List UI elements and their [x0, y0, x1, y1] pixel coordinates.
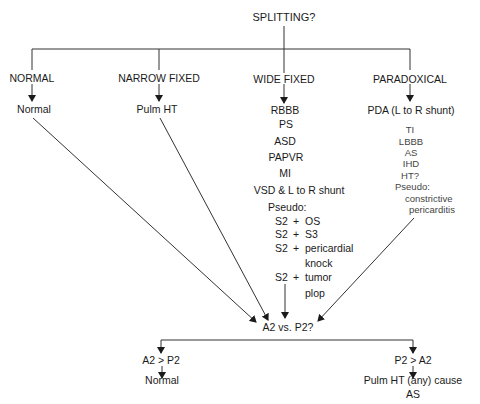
paradox-cause: TI	[406, 125, 414, 135]
wide-pseudo-prefix: S2	[275, 243, 288, 254]
paradox-cause: HT?	[401, 171, 419, 181]
wide-pseudo-prefix: S2	[275, 216, 288, 227]
compare-right-result: AS	[406, 389, 420, 400]
wide-cause: ASD	[274, 136, 296, 147]
paradox-main-cause: PDA (L to R shunt)	[367, 105, 454, 116]
wide-pseudo-item-cont: knock	[305, 258, 332, 269]
compare-right-label: P2 > A2	[394, 355, 431, 366]
paradox-pseudo-item: pericarditis	[409, 205, 455, 215]
wide-cause: VSD & L to R shunt	[254, 185, 345, 196]
wide-pseudo-item: S3	[305, 229, 318, 240]
narrow-fixed-result: Pulm HT	[137, 104, 178, 115]
paradox-cause: IHD	[403, 159, 419, 169]
pulmht-to-compare-arrow	[160, 118, 268, 320]
wide-pseudo-plus: +	[293, 216, 299, 227]
paradox-cause: LBBB	[399, 137, 423, 147]
wide-pseudo-plus: +	[293, 229, 299, 240]
branch-wide-fixed-label: WIDE FIXED	[253, 74, 314, 85]
wide-pseudo-prefix: S2	[275, 272, 288, 283]
compare-label: A2 vs. P2?	[263, 322, 314, 333]
normal-result: Normal	[17, 104, 51, 115]
wide-pseudo-prefix: S2	[275, 229, 288, 240]
compare-right-result: Pulm HT (any) cause	[364, 375, 462, 386]
paradox-pseudo-item: constrictive	[405, 194, 453, 204]
compare-left-label: A2 > P2	[142, 355, 180, 366]
root-label: SPLITTING?	[253, 12, 316, 23]
wide-cause: PS	[279, 119, 293, 130]
wide-pseudo-label: Pseudo:	[268, 202, 307, 213]
wide-cause: MI	[279, 168, 291, 179]
paradox-pseudo-label: Pseudo:	[395, 182, 430, 192]
wide-pseudo-item: pericardial	[305, 243, 353, 254]
wide-pseudo-item-cont: plop	[305, 288, 325, 299]
wide-pseudo-item: tumor	[305, 272, 332, 283]
branch-paradoxical-label: PARADOXICAL	[373, 74, 447, 85]
branch-normal-label: NORMAL	[10, 73, 55, 84]
wide-pseudo-item: OS	[305, 216, 320, 227]
paradox-cause: AS	[405, 148, 418, 158]
wide-pseudo-plus: +	[293, 272, 299, 283]
compare-left-result: Normal	[145, 375, 179, 386]
wide-cause: RBBB	[271, 105, 300, 116]
paradox-to-compare-arrow	[318, 218, 414, 321]
wide-pseudo-plus: +	[293, 243, 299, 254]
wide-cause: PAPVR	[269, 152, 304, 163]
normal-to-compare-arrow	[33, 118, 256, 322]
branch-narrow-fixed-label: NARROW FIXED	[118, 73, 200, 84]
